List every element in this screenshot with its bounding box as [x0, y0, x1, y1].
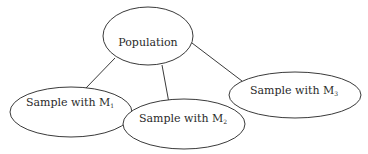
population-sampling-diagram: Population Sample with M1 Sample with M3…	[0, 0, 368, 154]
node-sample-m2-label: Sample with M2	[139, 112, 227, 125]
node-sample-m1: Sample with M1	[10, 87, 132, 137]
node-sample-m1-label: Sample with M1	[26, 96, 114, 109]
node-sample-m3-label: Sample with M3	[250, 84, 338, 97]
node-sample-m2: Sample with M2	[123, 99, 245, 149]
node-sample-m1-ellipse	[10, 87, 132, 137]
edge-population-m3	[192, 43, 242, 81]
node-sample-m3: Sample with M3	[229, 72, 361, 118]
edge-population-m1	[86, 58, 115, 88]
edge-population-m2	[162, 65, 169, 103]
node-population-label: Population	[118, 36, 177, 49]
node-population: Population	[103, 7, 193, 65]
